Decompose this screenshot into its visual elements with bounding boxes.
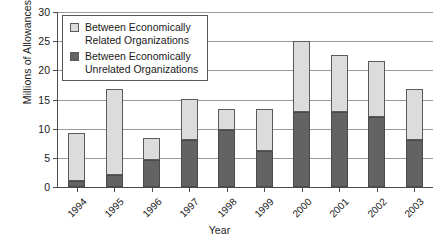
y-tick-mark bbox=[53, 12, 58, 13]
y-tick-label: 20 bbox=[38, 64, 50, 76]
stacked-bar-chart: Millions of Allowances 05101520253019941… bbox=[0, 0, 439, 249]
x-tick-mark bbox=[77, 187, 78, 192]
x-axis-title: Year bbox=[0, 224, 439, 236]
bar-group bbox=[368, 12, 385, 187]
bar-segment-related bbox=[68, 133, 85, 181]
bar-segment-unrelated bbox=[143, 160, 160, 187]
dark-gray-square-icon bbox=[70, 52, 79, 61]
y-tick-mark bbox=[53, 70, 58, 71]
bar-segment-unrelated bbox=[218, 130, 235, 187]
bar-group bbox=[331, 12, 348, 187]
y-axis-title: Millions of Allowances bbox=[21, 0, 33, 137]
bar-segment-related bbox=[331, 55, 348, 112]
bar-segment-unrelated bbox=[406, 140, 423, 187]
legend-item-unrelated: Between Economically Unrelated Organizat… bbox=[70, 50, 198, 75]
y-tick-mark bbox=[53, 158, 58, 159]
y-tick-label: 10 bbox=[38, 123, 50, 135]
bar-segment-unrelated bbox=[106, 175, 123, 187]
bar-segment-related bbox=[106, 89, 123, 175]
bar-segment-related bbox=[406, 89, 423, 140]
x-tick-mark bbox=[339, 187, 340, 192]
bar-segment-related bbox=[256, 109, 273, 152]
bar-segment-related bbox=[293, 41, 310, 112]
bar-segment-unrelated bbox=[368, 117, 385, 187]
bar-segment-unrelated bbox=[331, 112, 348, 187]
bar-segment-unrelated bbox=[256, 151, 273, 187]
legend-item-related: Between Economically Related Organizatio… bbox=[70, 21, 198, 46]
bar-segment-unrelated bbox=[68, 181, 85, 187]
x-tick-mark bbox=[414, 187, 415, 192]
bar-segment-unrelated bbox=[181, 140, 198, 187]
bar-group bbox=[406, 12, 423, 187]
x-tick-mark bbox=[152, 187, 153, 192]
x-tick-mark bbox=[302, 187, 303, 192]
y-tick-label: 5 bbox=[44, 152, 50, 164]
legend-item-unrelated-label: Between Economically Unrelated Organizat… bbox=[85, 50, 198, 75]
bar-segment-related bbox=[218, 109, 235, 130]
x-tick-mark bbox=[264, 187, 265, 192]
y-tick-mark bbox=[53, 187, 58, 188]
y-tick-label: 0 bbox=[44, 181, 50, 193]
legend-item-related-label: Between Economically Related Organizatio… bbox=[85, 21, 191, 46]
y-tick-mark bbox=[53, 100, 58, 101]
x-tick-mark bbox=[189, 187, 190, 192]
bar-group bbox=[293, 12, 310, 187]
chart-legend: Between Economically Related Organizatio… bbox=[62, 15, 208, 81]
light-gray-square-icon bbox=[70, 23, 79, 32]
x-tick-mark bbox=[377, 187, 378, 192]
x-tick-mark bbox=[114, 187, 115, 192]
x-tick-mark bbox=[227, 187, 228, 192]
bar-group bbox=[256, 12, 273, 187]
bar-segment-unrelated bbox=[293, 112, 310, 187]
y-tick-mark bbox=[53, 129, 58, 130]
y-tick-label: 25 bbox=[38, 35, 50, 47]
bar-group bbox=[218, 12, 235, 187]
bar-segment-related bbox=[181, 99, 198, 140]
y-tick-mark bbox=[53, 41, 58, 42]
bar-segment-related bbox=[143, 138, 160, 160]
bar-segment-related bbox=[368, 61, 385, 117]
y-tick-label: 30 bbox=[38, 6, 50, 18]
y-tick-label: 15 bbox=[38, 94, 50, 106]
